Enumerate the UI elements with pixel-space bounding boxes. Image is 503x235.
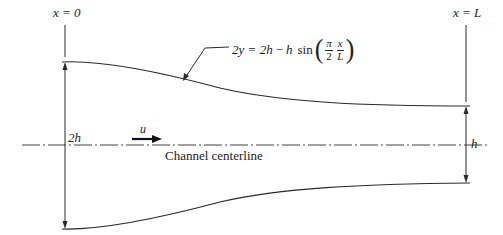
wall-equation: 2y = 2h − h sin ( π 2 x L ) <box>232 37 354 63</box>
channel-diagram <box>0 0 503 235</box>
eq-term1: 2h <box>260 42 273 58</box>
eq-frac-x-L: x L <box>337 38 344 62</box>
eq-minus: − <box>276 42 283 58</box>
lower-wall <box>62 183 470 229</box>
upper-wall <box>62 62 470 106</box>
outlet-arrow-down-icon <box>464 175 469 183</box>
eq-frac-pi-2: π 2 <box>325 38 333 62</box>
velocity-arrow-icon <box>152 135 162 143</box>
eq-paren-close: ) <box>346 36 355 63</box>
outlet-arrow-up-icon <box>464 106 469 114</box>
eq-equals: = <box>248 42 255 58</box>
eq-lhs: 2y <box>232 42 244 58</box>
eq-term2: h <box>286 42 293 58</box>
inlet-height-label: 2h <box>68 131 81 144</box>
eq-paren-open: ( <box>315 36 324 63</box>
equation-leader <box>185 47 229 78</box>
inlet-arrow-down-icon <box>63 221 68 229</box>
inlet-station-label: x = 0 <box>53 6 81 19</box>
outlet-station-label: x = L <box>453 6 481 19</box>
outlet-height-label: h <box>471 137 478 150</box>
inlet-arrow-up-icon <box>63 62 68 70</box>
velocity-label: u <box>140 123 146 135</box>
centerline-label: Channel centerline <box>165 149 263 162</box>
eq-func: sin <box>297 42 312 58</box>
